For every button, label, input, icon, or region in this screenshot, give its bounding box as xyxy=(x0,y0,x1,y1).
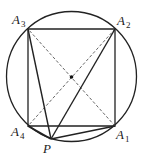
svg-text:4: 4 xyxy=(20,131,25,141)
svg-text:3: 3 xyxy=(21,19,26,29)
segment-pa2 xyxy=(51,29,115,139)
svg-text:A: A xyxy=(116,13,125,28)
svg-text:A: A xyxy=(10,124,19,139)
label-a1: A 1 xyxy=(115,127,130,144)
segment-pa4 xyxy=(28,126,51,139)
svg-text:A: A xyxy=(115,127,124,142)
svg-text:2: 2 xyxy=(126,20,131,30)
diagram-canvas: A 3 A 2 A 4 A 1 P xyxy=(0,0,145,166)
center-point xyxy=(70,75,74,79)
geometry-figure: A 3 A 2 A 4 A 1 P xyxy=(0,0,145,166)
svg-text:A: A xyxy=(11,12,20,27)
label-a4: A 4 xyxy=(10,124,25,141)
svg-text:1: 1 xyxy=(125,134,130,144)
svg-text:P: P xyxy=(42,141,51,156)
label-p: P xyxy=(42,141,51,156)
label-a2: A 2 xyxy=(116,13,131,30)
label-a3: A 3 xyxy=(11,12,26,29)
